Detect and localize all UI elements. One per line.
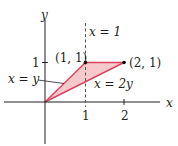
line1-label: x = y bbox=[8, 72, 39, 86]
point-label-2-1: (2, 1) bbox=[129, 56, 161, 70]
leader-line-x-equals-y bbox=[38, 80, 64, 84]
y-tick-label-1: 1 bbox=[32, 56, 40, 70]
point-2-1 bbox=[122, 61, 126, 65]
point-label-1-1: (1, 1) bbox=[55, 51, 87, 65]
x-tick-label-1: 1 bbox=[82, 109, 90, 123]
x-tick-label-2: 2 bbox=[121, 109, 129, 123]
line2-label: x = 2y bbox=[94, 77, 133, 91]
dashed-line-label: x = 1 bbox=[89, 25, 121, 39]
region-diagram: y x 1 2 1 x = 1 x = y x = 2y (1, 1) (2, … bbox=[0, 0, 178, 146]
x-axis-label: x bbox=[166, 96, 173, 110]
y-axis-label: y bbox=[40, 8, 48, 22]
